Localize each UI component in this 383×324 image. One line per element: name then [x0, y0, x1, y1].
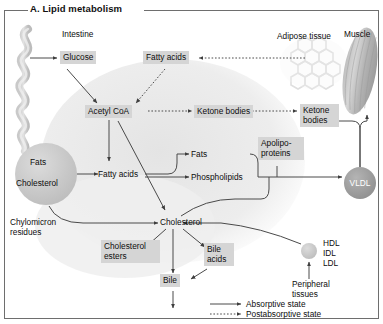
- legend-absorptive-label: Absorptive state: [246, 299, 306, 309]
- link-cholesterol-vldl: [181, 177, 269, 216]
- node-glucose: Glucose: [60, 51, 96, 64]
- apolipoproteins-line1: Apolipo-: [261, 138, 291, 148]
- cholesterol-esters-line1: Cholesterol: [104, 241, 146, 251]
- node-bile-acids: Bile acids: [204, 243, 234, 266]
- label-adipose-tissue: Adipose tissue: [277, 31, 331, 41]
- legend-postabsorptive-label: Postabsorptive state: [246, 309, 321, 319]
- node-fatty-acids-top: Fatty acids: [143, 51, 189, 64]
- arrow-glucose-acetylcoa: [67, 69, 97, 103]
- label-peripheral-tissues: Peripheral tissues: [292, 279, 352, 299]
- node-idl: IDL: [323, 248, 336, 258]
- node-fats: Fats: [191, 149, 207, 159]
- arrow-vldl-muscle-right: [360, 115, 367, 167]
- apolipoproteins-line2: proteins: [261, 148, 291, 158]
- legend-samples: [210, 304, 241, 314]
- cholesterol-esters-line2: esters: [104, 251, 127, 261]
- ketone-blood-line2: bodies: [303, 115, 327, 125]
- dotted-arrows: [136, 58, 305, 111]
- node-ketone-bodies-liver: Ketone bodies: [194, 105, 253, 118]
- chylomicron-line1: Chylomicron: [10, 217, 56, 227]
- node-cholesterol-circle: Cholesterol: [16, 178, 58, 188]
- arrow-vldl-muscle-left: [337, 111, 360, 167]
- bile-acids-line1: Bile: [207, 244, 221, 254]
- node-apolipoproteins: Apolipo- proteins: [258, 137, 304, 160]
- node-vldl: VLDL: [344, 167, 376, 199]
- node-ketone-bodies-blood: Ketone bodies: [300, 104, 339, 127]
- solid-arrows: [30, 58, 367, 308]
- ketone-blood-line1: Ketone: [303, 105, 329, 115]
- arrow-bileacids-bile: [191, 269, 207, 279]
- figure-panel: A. Lipid metabolism: [0, 0, 383, 324]
- chylomicron-line2: residues: [10, 227, 41, 237]
- label-chylomicron-residues: Chylomicron residues: [10, 217, 80, 237]
- arrow-fattyacids-fats: [145, 154, 189, 174]
- label-muscle: Muscle: [344, 29, 370, 39]
- node-fatty-acids-mid: Fatty acids: [98, 169, 138, 179]
- arrow-fattyacids-acetylcoa: [136, 69, 165, 103]
- node-phospholipids: Phospholipids: [191, 172, 243, 182]
- node-acetyl-coa: Acetyl CoA: [85, 105, 132, 118]
- diagram-canvas: Intestine Glucose Fatty acids Adipose ti…: [5, 11, 378, 318]
- node-fats-circle: Fats: [30, 157, 46, 167]
- node-hdl: HDL: [323, 238, 340, 248]
- node-ldl: LDL: [323, 258, 338, 268]
- arrow-acetylcoa-cholesterol: [118, 121, 165, 210]
- node-bile: Bile: [160, 274, 180, 287]
- node-cholesterol: Cholesterol: [160, 217, 202, 227]
- bile-acids-line2: acids: [207, 254, 226, 264]
- arrow-cholesterol-bileacids: [183, 229, 205, 247]
- label-intestine: Intestine: [62, 29, 93, 39]
- node-cholesterol-esters: Cholesterol esters: [101, 240, 160, 263]
